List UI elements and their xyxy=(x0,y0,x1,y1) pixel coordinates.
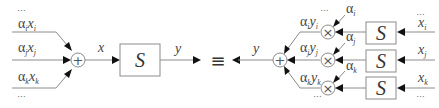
system-block-left: S xyxy=(120,44,160,76)
left-input-j: αjxj xyxy=(12,40,71,64)
ellipsis-bottom-right: … xyxy=(416,89,425,99)
sum-node-left: + xyxy=(71,53,85,68)
system-label: S xyxy=(376,50,386,72)
equivalence-symbol: ≡ xyxy=(210,50,225,71)
arrow-head xyxy=(335,28,343,36)
ellipsis-bottom: … xyxy=(17,89,26,99)
linearity-diagram: … αixi αjxj αkxk … xyxy=(0,0,439,108)
right-network: y + … … … … αiyi × αi S xyxy=(232,1,435,99)
branch-k: αkyk × αk S xk xyxy=(284,58,435,99)
system-label: S xyxy=(376,22,386,44)
arrow-head xyxy=(287,56,295,64)
multiply-icon: × xyxy=(323,81,334,96)
multiply-icon: × xyxy=(323,53,334,68)
arrow-head xyxy=(397,56,405,64)
arrow-head xyxy=(397,28,405,36)
left-input-k: αkxk xyxy=(12,69,72,88)
arrow-head xyxy=(333,47,340,55)
product-label: αjyj xyxy=(300,40,319,57)
arrow-head xyxy=(333,19,340,27)
system-label: S xyxy=(135,49,145,71)
sum-node-right: + xyxy=(273,53,287,68)
multiply-icon: × xyxy=(323,25,334,40)
plus-icon: + xyxy=(73,53,84,68)
arrow-head xyxy=(63,56,71,64)
input-label: xj xyxy=(417,42,427,59)
ellipsis-top: … xyxy=(17,3,26,13)
weight-label: αk xyxy=(346,58,357,75)
signal-y-label: y xyxy=(173,41,182,56)
arrow-head xyxy=(333,75,340,83)
left-network: … αixi αjxj αkxk … xyxy=(12,3,201,99)
ellipsis-top-left: … xyxy=(320,3,329,13)
input-label: xi xyxy=(417,15,426,32)
arrow-head xyxy=(335,84,343,92)
ellipsis-bottom-left: … xyxy=(313,89,322,99)
product-label: αiyi xyxy=(300,14,318,31)
weight-label: αi xyxy=(346,1,356,18)
product-label: αkyk xyxy=(300,70,321,87)
signal-x-label: x xyxy=(97,40,105,55)
output-y-label: y xyxy=(251,41,260,56)
arrow-head xyxy=(112,56,120,64)
arrow-head xyxy=(397,84,405,92)
input-label-i: αixi xyxy=(18,16,36,33)
arrow-head xyxy=(335,56,343,64)
arrow-head xyxy=(193,56,201,64)
branch-j: αjyj × αj S xj xyxy=(287,29,435,72)
plus-icon: + xyxy=(275,53,286,68)
input-label: xk xyxy=(417,70,428,87)
system-label: S xyxy=(376,77,386,99)
input-label-j: αjxj xyxy=(18,40,37,57)
input-label-k: αkxk xyxy=(18,69,39,86)
